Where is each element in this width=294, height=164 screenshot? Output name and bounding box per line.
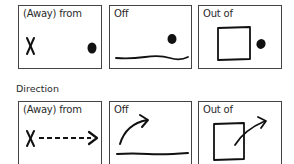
section-label-direction: Direction — [16, 83, 59, 94]
panel-out-of-position: Out of — [198, 5, 282, 69]
dashed-arrow-from-x-illustration — [19, 102, 103, 164]
dot-icon — [168, 34, 177, 44]
curved-arrow-off-line-illustration — [110, 102, 193, 164]
x-mark-and-dot-illustration — [19, 6, 103, 70]
exit-arrow — [235, 121, 265, 145]
surface-line — [117, 153, 188, 154]
square-container — [214, 123, 244, 160]
curved-arrow — [120, 120, 147, 144]
x-mark-icon — [27, 131, 34, 146]
dot-outside-square-illustration — [199, 6, 283, 70]
arrow-exiting-square-illustration — [199, 102, 283, 164]
panel-off-position: Off — [109, 5, 192, 69]
panel-away-from-direction: (Away) from — [18, 101, 102, 164]
panel-out-of-direction: Out of — [198, 101, 282, 164]
square-container — [218, 27, 250, 60]
dot-icon — [255, 38, 267, 51]
dot-icon — [88, 43, 97, 54]
panel-off-direction: Off — [109, 101, 192, 164]
panel-away-from-position: (Away) from — [18, 5, 102, 69]
x-mark-icon — [27, 38, 34, 54]
dot-above-line-illustration — [110, 6, 193, 70]
surface-line — [116, 56, 188, 59]
